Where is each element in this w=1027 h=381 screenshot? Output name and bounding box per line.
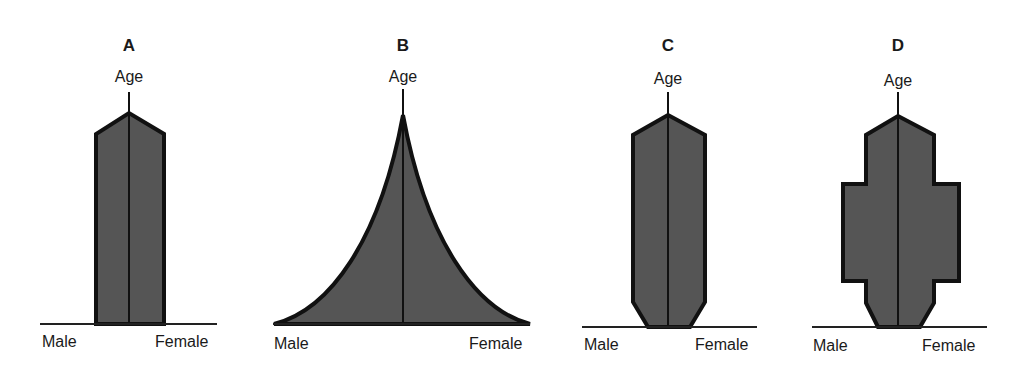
panel-c: C Age Male Female — [582, 36, 757, 353]
panel-a-age-label: Age — [115, 68, 144, 85]
panel-d-female-label: Female — [922, 337, 975, 354]
panel-b-label: B — [397, 36, 409, 55]
panel-c-label: C — [662, 36, 674, 55]
panel-a-label: A — [123, 36, 135, 55]
panel-d-male-label: Male — [813, 337, 848, 354]
panel-b-age-label: Age — [389, 68, 418, 85]
panel-d-label: D — [892, 36, 904, 55]
panel-c-male-label: Male — [584, 336, 619, 353]
panel-b: B Age Male Female — [273, 36, 530, 352]
panel-a: A Age Male Female — [40, 36, 217, 350]
panel-b-male-label: Male — [274, 335, 309, 352]
panel-d: D Age Male Female — [812, 36, 987, 354]
panel-d-age-label: Age — [884, 72, 913, 89]
panel-c-female-label: Female — [695, 336, 748, 353]
population-pyramids-diagram: A Age Male Female B Age Male Female C Ag… — [0, 0, 1027, 381]
panel-b-female-label: Female — [469, 335, 522, 352]
panel-a-female-label: Female — [155, 333, 208, 350]
panel-a-male-label: Male — [42, 333, 77, 350]
panel-c-age-label: Age — [654, 70, 683, 87]
panel-d-pyramid-shape — [843, 116, 959, 327]
